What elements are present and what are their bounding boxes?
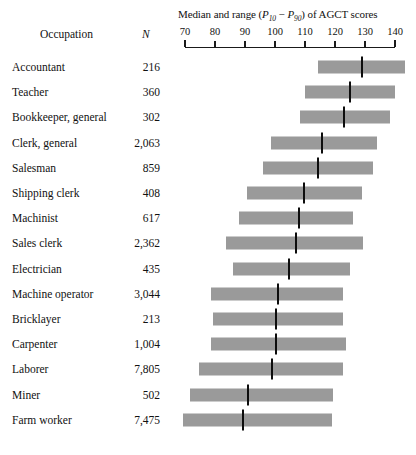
median-marker — [298, 208, 300, 229]
row-value-n: 1,004 — [118, 338, 160, 350]
range-bar — [213, 313, 343, 326]
row-label-occupation: Salesman — [12, 162, 56, 174]
tick-label-80: 80 — [210, 26, 221, 37]
row-value-n: 216 — [118, 61, 160, 73]
row-label-occupation: Farm worker — [12, 414, 72, 426]
tick-mark-110 — [304, 41, 305, 47]
tick-mark-120 — [334, 41, 335, 47]
row-label-occupation: Clerk, general — [12, 137, 77, 149]
range-bar — [190, 388, 333, 401]
axis-title-suffix: ) of AGCT scores — [301, 8, 377, 20]
row-label-occupation: Accountant — [12, 61, 65, 73]
tick-mark-100 — [274, 41, 275, 47]
tick-mark-70 — [184, 40, 185, 47]
row-label-occupation: Miner — [12, 389, 40, 401]
tick-label-100: 100 — [267, 26, 283, 37]
row-value-n: 213 — [118, 313, 160, 325]
median-marker — [361, 57, 363, 78]
axis-tick-labels: 708090100110120130140 — [0, 26, 416, 40]
row-value-n: 435 — [118, 263, 160, 275]
agct-occupation-chart: Occupation N Median and range (P10 − P90… — [0, 0, 416, 455]
row-value-n: 3,044 — [118, 288, 160, 300]
median-marker — [288, 258, 290, 279]
row-label-occupation: Sales clerk — [12, 237, 62, 249]
row-value-n: 502 — [118, 389, 160, 401]
median-marker — [321, 132, 323, 153]
row-label-occupation: Shipping clerk — [12, 187, 79, 199]
row-label-occupation: Machine operator — [12, 288, 93, 300]
row-label-occupation: Bricklayer — [12, 313, 61, 325]
range-bar — [239, 212, 353, 225]
median-marker — [277, 283, 279, 304]
median-marker — [275, 309, 277, 330]
row-value-n: 302 — [118, 111, 160, 123]
tick-mark-140 — [394, 40, 395, 47]
median-marker — [349, 82, 351, 103]
axis-title: Median and range (P10 − P90) of AGCT sco… — [178, 8, 377, 23]
row-label-occupation: Machinist — [12, 212, 58, 224]
row-label-occupation: Teacher — [12, 86, 48, 98]
axis-title-p90: P90 — [287, 8, 301, 20]
median-marker — [343, 107, 345, 128]
row-value-n: 617 — [118, 212, 160, 224]
median-marker — [242, 409, 244, 430]
tick-label-70: 70 — [180, 26, 191, 37]
axis-title-p10: P10 — [262, 8, 276, 20]
median-marker — [247, 384, 249, 405]
row-value-n: 7,475 — [118, 414, 160, 426]
median-marker — [271, 359, 273, 380]
axis-title-dash: − — [276, 8, 287, 20]
axis-line — [185, 47, 395, 48]
range-bar — [211, 338, 346, 351]
median-marker — [275, 334, 277, 355]
row-label-occupation: Laborer — [12, 363, 48, 375]
median-marker — [317, 157, 319, 178]
row-value-n: 360 — [118, 86, 160, 98]
row-value-n: 2,063 — [118, 137, 160, 149]
row-value-n: 859 — [118, 162, 160, 174]
median-marker — [303, 183, 305, 204]
range-bar — [183, 413, 332, 426]
range-bar — [271, 136, 377, 149]
tick-mark-90 — [244, 41, 245, 47]
row-value-n: 408 — [118, 187, 160, 199]
row-label-occupation: Bookkeeper, general — [12, 111, 107, 123]
row-label-occupation: Electrician — [12, 263, 62, 275]
row-label-occupation: Carpenter — [12, 338, 57, 350]
tick-mark-130 — [364, 41, 365, 47]
median-marker — [295, 233, 297, 254]
tick-label-120: 120 — [327, 26, 343, 37]
tick-label-110: 110 — [297, 26, 312, 37]
tick-label-140: 140 — [387, 26, 403, 37]
row-value-n: 7,805 — [118, 363, 160, 375]
row-value-n: 2,362 — [118, 237, 160, 249]
range-bar — [233, 262, 350, 275]
tick-label-130: 130 — [357, 26, 373, 37]
axis-title-prefix: Median and range ( — [178, 8, 262, 20]
tick-mark-80 — [214, 41, 215, 47]
tick-label-90: 90 — [240, 26, 251, 37]
